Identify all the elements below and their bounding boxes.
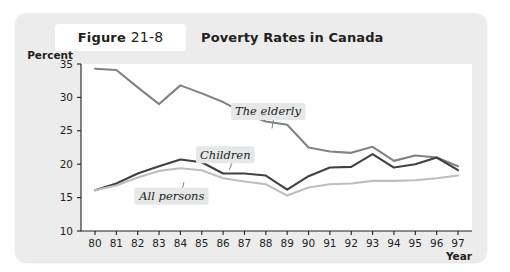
svg-text:96: 96 xyxy=(430,237,444,249)
svg-text:97: 97 xyxy=(451,237,464,249)
svg-text:80: 80 xyxy=(88,237,101,249)
svg-text:89: 89 xyxy=(280,237,293,249)
svg-text:30: 30 xyxy=(60,91,73,103)
poverty-rates-line-chart: 101520253035Percent808182838485868788899… xyxy=(15,13,487,262)
svg-text:82: 82 xyxy=(131,237,144,249)
svg-text:All persons: All persons xyxy=(138,189,204,203)
svg-text:10: 10 xyxy=(60,225,73,237)
svg-text:92: 92 xyxy=(345,237,358,249)
figure-card: Figure 21-8 Poverty Rates in Canada 1015… xyxy=(15,13,487,262)
svg-text:86: 86 xyxy=(216,237,230,249)
svg-text:87: 87 xyxy=(238,237,251,249)
svg-text:Percent: Percent xyxy=(27,49,73,61)
svg-text:Children: Children xyxy=(200,148,251,162)
svg-text:15: 15 xyxy=(60,191,73,203)
svg-text:95: 95 xyxy=(409,237,422,249)
svg-text:83: 83 xyxy=(152,237,165,249)
chart-annotations-group: The elderlyChildrenAll persons xyxy=(134,103,305,205)
svg-text:81: 81 xyxy=(110,237,123,249)
svg-text:84: 84 xyxy=(174,237,188,249)
svg-text:94: 94 xyxy=(387,237,401,249)
svg-text:91: 91 xyxy=(323,237,336,249)
svg-text:90: 90 xyxy=(302,237,315,249)
svg-text:The elderly: The elderly xyxy=(235,104,301,118)
svg-text:Year: Year xyxy=(445,250,473,262)
svg-text:85: 85 xyxy=(195,237,208,249)
svg-text:93: 93 xyxy=(366,237,379,249)
svg-text:25: 25 xyxy=(60,124,73,136)
svg-text:20: 20 xyxy=(60,158,73,170)
svg-text:88: 88 xyxy=(259,237,272,249)
chart-series-group xyxy=(95,69,458,196)
